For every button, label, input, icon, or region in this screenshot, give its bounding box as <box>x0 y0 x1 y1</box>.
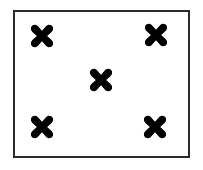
figure-canvas <box>0 0 203 170</box>
rectangular-border <box>13 10 190 158</box>
frame-inner-highlight <box>15 12 188 156</box>
